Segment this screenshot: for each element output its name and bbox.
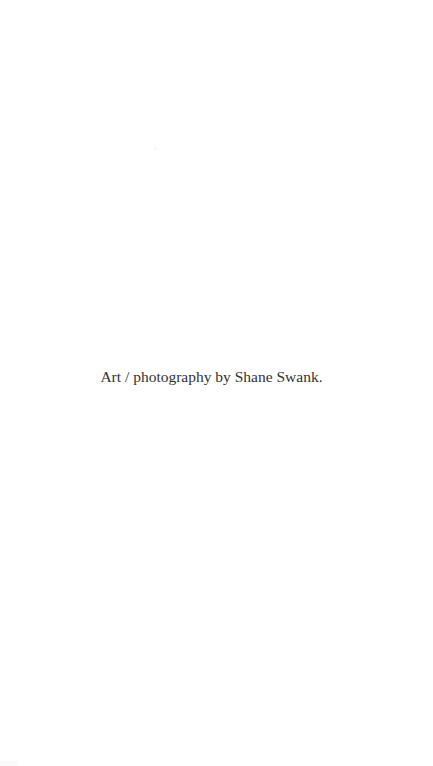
faint-mark xyxy=(154,147,157,150)
page: Art / photography by Shane Swank. xyxy=(0,0,433,766)
artist-credit: Art / photography by Shane Swank. xyxy=(0,366,423,388)
corner-mark xyxy=(0,761,18,766)
